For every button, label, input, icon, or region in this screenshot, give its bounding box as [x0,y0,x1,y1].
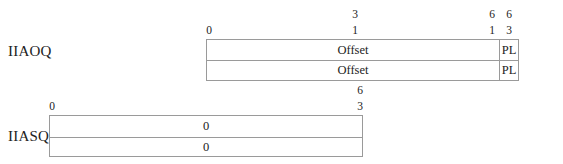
field-pl: PL [499,40,518,60]
register-name: IIAOQ [8,43,52,60]
register-name: IIASQ [8,128,49,145]
bit-label-61-tens: 6 [486,8,498,21]
bit-label-63-ones: 3 [354,100,366,113]
bit-label-31-ones: 1 [349,24,361,37]
field-value: 0 [50,138,362,156]
bit-label-61-ones: 1 [486,24,498,37]
register-box: Offset PL Offset PL [206,39,519,81]
bit-label-31-tens: 3 [349,8,361,21]
bit-label-63-ones: 3 [503,24,515,37]
field-value: 0 [50,116,362,137]
bit-label-63-tens: 6 [354,84,366,97]
bit-label-start: 0 [46,100,58,113]
field-offset: Offset [207,40,499,60]
bit-label-63-tens: 6 [503,8,515,21]
register-row: Offset PL [207,40,518,60]
field-offset: Offset [207,61,499,80]
register-row: 0 [50,137,362,156]
register-box: 0 0 [49,115,363,157]
field-pl: PL [499,61,518,80]
register-row: Offset PL [207,60,518,80]
register-row: 0 [50,116,362,137]
bit-label-start: 0 [203,24,215,37]
